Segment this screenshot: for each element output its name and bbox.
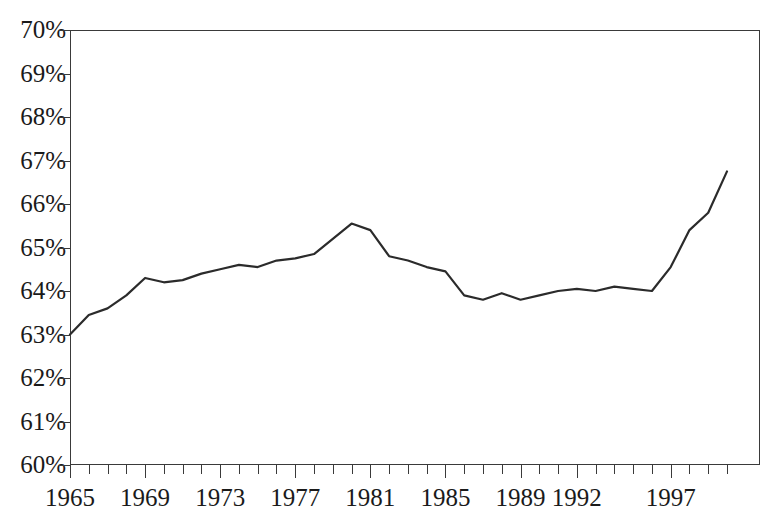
- x-axis-tick-mark: [464, 465, 465, 474]
- x-axis-tick-mark: [445, 465, 446, 478]
- y-axis-tick-label: 61%: [4, 409, 66, 434]
- x-axis-tick-mark: [89, 465, 90, 474]
- x-axis-tick-label: 1997: [626, 484, 716, 512]
- x-axis-tick-mark: [558, 465, 559, 474]
- x-axis-tick-mark: [408, 465, 409, 474]
- x-axis-tick-mark: [164, 465, 165, 474]
- y-axis-tick-label: 64%: [4, 278, 66, 303]
- x-axis-tick-mark: [483, 465, 484, 474]
- x-axis-tick-mark: [521, 465, 522, 478]
- x-axis-tick-mark: [652, 465, 653, 474]
- x-axis-tick-mark: [614, 465, 615, 474]
- y-axis-tick-mark: [60, 291, 71, 292]
- y-axis-tick-label: 63%: [4, 322, 66, 347]
- x-axis-tick-mark: [220, 465, 221, 478]
- x-axis-tick-mark: [389, 465, 390, 474]
- y-axis-tick-mark: [60, 74, 71, 75]
- cropped-title-remnant: [0, 0, 773, 14]
- y-axis-tick-label: 66%: [4, 191, 66, 216]
- x-axis-tick-label: 1992: [532, 484, 622, 512]
- y-axis-tick-mark: [60, 248, 71, 249]
- y-axis-tick-label: 70%: [4, 17, 66, 42]
- y-axis-tick-label: 69%: [4, 61, 66, 86]
- plot-area: [70, 30, 760, 465]
- x-axis-tick-mark: [239, 465, 240, 474]
- y-axis-tick-label: 62%: [4, 365, 66, 390]
- x-axis-tick-mark: [314, 465, 315, 474]
- x-axis-tick-mark: [258, 465, 259, 474]
- chart-figure: 70%69%68%67%66%65%64%63%62%61%60% 196519…: [0, 0, 773, 532]
- y-axis-tick-label: 65%: [4, 235, 66, 260]
- y-axis-tick-mark: [60, 335, 71, 336]
- x-axis-tick-mark: [596, 465, 597, 474]
- x-axis-tick-mark: [108, 465, 109, 474]
- y-axis-tick-labels: 70%69%68%67%66%65%64%63%62%61%60%: [0, 0, 66, 532]
- x-axis-tick-mark: [370, 465, 371, 478]
- y-axis-tick-mark: [60, 161, 71, 162]
- x-axis-tick-mark: [577, 465, 578, 478]
- x-axis-tick-mark: [633, 465, 634, 474]
- x-axis-tick-mark: [145, 465, 146, 478]
- y-axis-tick-mark: [60, 117, 71, 118]
- x-axis-tick-mark: [276, 465, 277, 474]
- x-axis-tick-mark: [427, 465, 428, 474]
- x-axis-tick-mark: [689, 465, 690, 474]
- y-axis-tick-label: 60%: [4, 452, 66, 477]
- x-axis-tick-mark: [183, 465, 184, 474]
- y-axis-tick-mark: [60, 204, 71, 205]
- x-axis-tick-mark: [727, 465, 728, 474]
- x-axis-tick-mark: [352, 465, 353, 474]
- y-axis-tick-mark: [60, 30, 71, 31]
- x-axis-tick-mark: [295, 465, 296, 478]
- y-axis-tick-mark: [60, 378, 71, 379]
- x-axis-tick-mark: [126, 465, 127, 474]
- x-axis-tick-mark: [201, 465, 202, 474]
- x-axis-tick-mark: [539, 465, 540, 474]
- x-axis-tick-mark: [333, 465, 334, 474]
- x-axis-tick-mark: [502, 465, 503, 474]
- x-axis-tick-mark: [708, 465, 709, 474]
- y-axis-tick-label: 68%: [4, 104, 66, 129]
- x-axis-tick-mark: [671, 465, 672, 478]
- y-axis-tick-label: 67%: [4, 148, 66, 173]
- y-axis-tick-mark: [60, 422, 71, 423]
- x-axis-tick-mark: [70, 465, 71, 478]
